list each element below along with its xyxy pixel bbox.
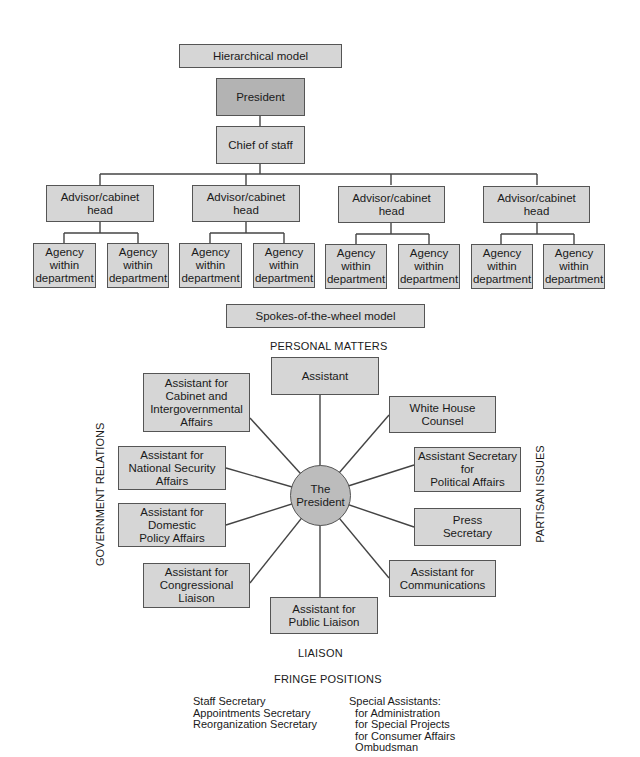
agency-box: Agency within department	[471, 244, 533, 289]
agency-box: Agency within department	[325, 244, 387, 289]
communications-box: Assistant for Communications	[389, 560, 496, 597]
press-secretary-box: Press Secretary	[414, 508, 521, 546]
hierarchical-model-title: Hierarchical model	[179, 44, 342, 68]
the-president-hub: The President	[290, 465, 351, 526]
advisor-box: Advisor/cabinet head	[46, 185, 154, 222]
agency-box: Agency within department	[179, 243, 242, 288]
personal-matters-label: PERSONAL MATTERS	[270, 340, 388, 352]
partisan-issues-label: PARTISAN ISSUES	[534, 444, 546, 544]
fringe-positions-title: FRINGE POSITIONS	[274, 673, 382, 685]
agency-box: Agency within department	[33, 243, 96, 288]
government-relations-label: GOVERNMENT RELATIONS	[94, 426, 106, 566]
political-affairs-box: Assistant Secretary for Political Affair…	[414, 447, 521, 492]
advisor-box: Advisor/cabinet head	[192, 185, 300, 222]
white-house-counsel-box: White House Counsel	[389, 396, 496, 433]
agency-box: Agency within department	[543, 244, 605, 289]
chief-of-staff-box: Chief of staff	[216, 126, 305, 164]
national-security-box: Assistant for National Security Affairs	[118, 446, 226, 490]
fringe-list-left: Staff Secretary Appointments Secretary R…	[193, 696, 317, 731]
congressional-liaison-box: Assistant for Congressional Liaison	[143, 563, 250, 608]
president-box: President	[216, 78, 305, 116]
cabinet-affairs-box: Assistant for Cabinet and Intergovernmen…	[143, 373, 250, 432]
assistant-box: Assistant	[271, 357, 379, 395]
advisor-box: Advisor/cabinet head	[338, 186, 445, 223]
agency-box: Agency within department	[253, 243, 315, 288]
domestic-policy-box: Assistant for Domestic Policy Affairs	[118, 503, 226, 547]
spokes-model-title: Spokes-of-the-wheel model	[226, 304, 425, 328]
public-liaison-box: Assistant for Public Liaison	[270, 597, 378, 634]
advisor-box: Advisor/cabinet head	[483, 186, 590, 223]
liaison-label: LIAISON	[298, 647, 343, 659]
agency-box: Agency within department	[107, 243, 169, 288]
fringe-list-right: Special Assistants: for Administration f…	[349, 696, 455, 754]
agency-box: Agency within department	[398, 244, 460, 289]
